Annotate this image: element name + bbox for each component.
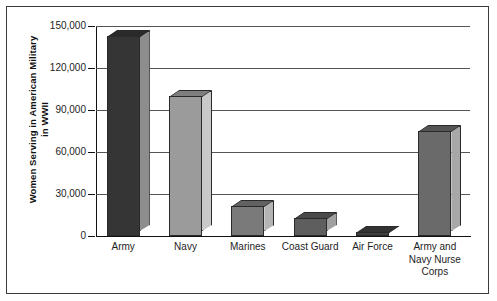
y-axis-tick	[88, 194, 95, 195]
plot-area	[96, 26, 470, 236]
bar-front-face	[418, 131, 451, 236]
bar	[169, 96, 202, 236]
y-axis-tick-label: 0	[26, 231, 86, 241]
bar-side-face	[202, 91, 212, 231]
gridline	[96, 194, 470, 195]
gridline	[96, 152, 470, 153]
bar	[418, 131, 451, 236]
bar-side-face	[451, 126, 461, 231]
bar	[356, 232, 389, 236]
y-axis-tick-label: 60,000	[26, 147, 86, 157]
bar-front-face	[169, 96, 202, 236]
gridline	[96, 26, 470, 27]
y-axis-tick	[88, 26, 95, 27]
bar-front-face	[107, 36, 140, 236]
x-axis-tick-label: Air Force	[341, 241, 403, 254]
y-axis-tick	[88, 236, 95, 237]
y-axis-tick-label: 90,000	[26, 105, 86, 115]
bar-front-face	[231, 206, 264, 236]
y-axis-tick-labels: 030,00060,00090,000120,000150,000	[18, 0, 86, 301]
bar	[107, 36, 140, 236]
bar-side-face	[140, 31, 150, 231]
gridline	[96, 110, 470, 111]
x-axis-tick-label: Marines	[217, 241, 279, 254]
y-axis-tick-label: 120,000	[26, 63, 86, 73]
x-axis-tick-label: Army	[92, 241, 154, 254]
bar-front-face	[356, 232, 389, 236]
y-axis-tick	[88, 110, 95, 111]
bar	[231, 206, 264, 236]
x-axis-tick-label: Navy	[154, 241, 216, 254]
x-axis-tick-label: Coast Guard	[279, 241, 341, 254]
x-axis-line	[96, 236, 471, 237]
x-axis-tick-labels: ArmyNavyMarinesCoast GuardAir ForceArmy …	[96, 241, 471, 296]
y-axis-tick	[88, 68, 95, 69]
y-axis-tick	[88, 152, 95, 153]
y-axis-tick-label: 30,000	[26, 189, 86, 199]
x-axis-tick-label: Army and Navy Nurse Corps	[404, 241, 466, 279]
chart-figure: Women Serving in American Military in WW…	[0, 0, 497, 301]
bar-front-face	[294, 218, 327, 236]
gridline	[96, 68, 470, 69]
y-axis-tick-label: 150,000	[26, 21, 86, 31]
bar	[294, 218, 327, 236]
